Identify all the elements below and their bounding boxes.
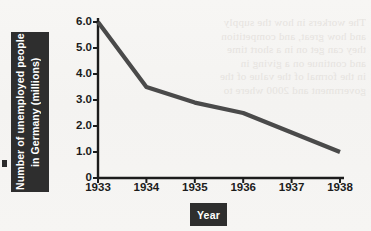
x-axis-title-box: Year <box>190 203 227 226</box>
chart-axes <box>98 18 344 178</box>
data-line-series <box>98 22 340 152</box>
x-tick-label: 1937 <box>279 181 305 193</box>
x-tick-label: 1936 <box>230 181 256 193</box>
x-axis-tick-labels: 193319341935193619371938 <box>0 181 371 199</box>
x-tick-label: 1938 <box>327 181 353 193</box>
x-tick-label: 1935 <box>182 181 208 193</box>
axis-tick-marks <box>93 22 340 183</box>
x-tick-label: 1934 <box>134 181 160 193</box>
x-tick-label: 1933 <box>85 181 111 193</box>
scanned-page-background: The workers in how the supply and how gr… <box>0 0 371 231</box>
x-axis-title: Year <box>197 209 220 221</box>
